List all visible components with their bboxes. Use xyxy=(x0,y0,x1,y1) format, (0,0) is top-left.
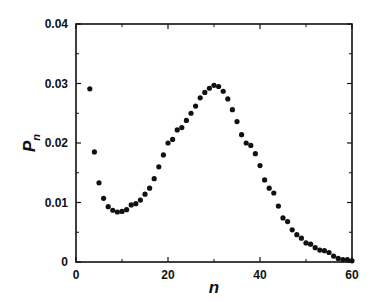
data-point xyxy=(92,149,97,154)
data-point xyxy=(345,257,350,262)
data-point xyxy=(147,186,152,191)
y-tick-label: 0.04 xyxy=(45,17,69,31)
data-point xyxy=(326,250,331,255)
data-point xyxy=(165,140,170,145)
data-point xyxy=(322,248,327,253)
x-tick-label: 60 xyxy=(345,268,359,282)
data-point xyxy=(193,104,198,109)
data-point xyxy=(340,257,345,262)
x-tick-label: 40 xyxy=(253,268,267,282)
svg-text:Pn: Pn xyxy=(20,134,42,152)
data-point xyxy=(331,253,336,258)
data-point xyxy=(308,242,313,247)
data-point xyxy=(216,84,221,89)
data-point xyxy=(96,180,101,185)
y-tick-label: 0.01 xyxy=(45,196,69,210)
data-point xyxy=(239,132,244,137)
data-point xyxy=(211,83,216,88)
y-tick-label: 0.02 xyxy=(45,136,69,150)
data-point xyxy=(248,143,253,148)
data-point xyxy=(129,202,134,207)
data-point xyxy=(106,204,111,209)
data-point xyxy=(262,177,267,182)
data-point xyxy=(271,190,276,195)
data-points xyxy=(87,83,354,264)
data-point xyxy=(170,137,175,142)
data-point xyxy=(87,86,92,91)
data-point xyxy=(101,196,106,201)
plot-frame xyxy=(76,24,352,262)
data-point xyxy=(156,164,161,169)
data-point xyxy=(142,192,147,197)
data-point xyxy=(313,245,318,250)
data-point xyxy=(124,207,129,212)
data-point xyxy=(234,119,239,124)
data-point xyxy=(202,90,207,95)
y-axis-label: Pn xyxy=(20,134,42,152)
data-point xyxy=(299,236,304,241)
data-point xyxy=(119,209,124,214)
axis-ticks xyxy=(76,24,352,262)
data-point xyxy=(179,125,184,130)
data-point xyxy=(253,151,258,156)
data-point xyxy=(257,163,262,168)
data-point xyxy=(280,215,285,220)
data-point xyxy=(175,127,180,132)
data-point xyxy=(184,118,189,123)
data-point xyxy=(188,111,193,116)
y-tick-label: 0.03 xyxy=(45,77,69,91)
data-point xyxy=(267,186,272,191)
data-point xyxy=(225,96,230,101)
y-axis-label-main: P xyxy=(20,140,39,152)
data-point xyxy=(115,209,120,214)
data-point xyxy=(138,198,143,203)
data-point xyxy=(276,203,281,208)
data-point xyxy=(317,248,322,253)
y-tick-label: 0 xyxy=(61,255,68,269)
x-tick-label: 20 xyxy=(161,268,175,282)
y-axis-label-sub: n xyxy=(30,134,42,141)
x-tick-label: 0 xyxy=(73,268,80,282)
x-axis-label: n xyxy=(209,278,219,297)
data-point xyxy=(230,107,235,112)
data-point xyxy=(336,256,341,261)
data-point xyxy=(285,219,290,224)
data-point xyxy=(198,95,203,100)
data-point xyxy=(290,227,295,232)
data-point xyxy=(207,86,212,91)
data-point xyxy=(349,258,354,263)
data-point xyxy=(221,89,226,94)
scatter-chart: 020406000.010.020.030.04 n Pn xyxy=(0,0,372,302)
data-point xyxy=(152,176,157,181)
data-point xyxy=(161,152,166,157)
data-point xyxy=(303,240,308,245)
data-point xyxy=(244,140,249,145)
data-point xyxy=(294,232,299,237)
data-point xyxy=(110,208,115,213)
data-point xyxy=(133,201,138,206)
